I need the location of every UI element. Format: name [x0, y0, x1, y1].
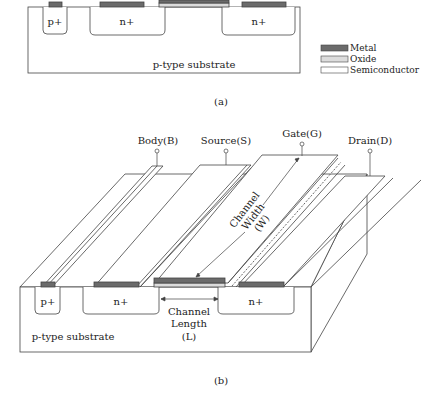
p-plus-label-b: p+ — [41, 296, 56, 307]
gate-metal-a — [159, 0, 229, 3]
channel-length-line1: Channel — [168, 306, 210, 317]
source-terminal-icon — [224, 149, 228, 153]
gate-oxide-b — [154, 283, 225, 287]
body-terminal-icon — [155, 149, 159, 153]
legend-swatch-metal — [321, 45, 348, 51]
gate-label: Gate(G) — [282, 128, 322, 139]
n-plus-drain-label-b: n+ — [249, 296, 264, 307]
mosfet-diagram: p+ n+ n+ p-type substrate Metal Oxide Se… — [0, 0, 448, 408]
drain-terminal-icon — [368, 149, 372, 153]
terminal-labels: Body(B) Source(S) Gate(G) Drain(D) — [138, 128, 392, 146]
gate-oxide-a — [159, 3, 229, 7]
n-plus-drain-label-a: n+ — [252, 16, 267, 27]
source-metal-a — [100, 2, 144, 7]
caption-b: (b) — [214, 375, 228, 386]
legend-swatch-oxide — [321, 56, 348, 62]
drain-metal-a — [242, 2, 286, 7]
legend-label-semiconductor: Semiconductor — [350, 65, 420, 75]
n-plus-source-label-a: n+ — [120, 16, 135, 27]
source-metal-b — [94, 282, 139, 287]
body-metal-a — [49, 2, 62, 7]
substrate-label-a: p-type substrate — [153, 59, 236, 70]
channel-length-line2: Length — [171, 318, 207, 329]
caption-a: (a) — [214, 96, 228, 107]
legend-label-metal: Metal — [350, 43, 377, 53]
body-metal-b — [41, 282, 55, 287]
channel-length-line3: (L) — [182, 331, 197, 342]
body-label: Body(B) — [138, 135, 179, 146]
p-plus-label-a: p+ — [48, 16, 63, 27]
substrate-label-b: p-type substrate — [32, 331, 115, 342]
legend-label-oxide: Oxide — [350, 54, 376, 64]
drain-metal-b — [239, 282, 284, 287]
source-label: Source(S) — [201, 135, 251, 146]
gate-terminal-icon — [300, 142, 304, 146]
legend-swatch-semiconductor — [321, 67, 348, 73]
legend: Metal Oxide Semiconductor — [321, 43, 420, 75]
n-plus-source-label-b: n+ — [114, 296, 129, 307]
drain-label: Drain(D) — [348, 135, 392, 146]
gate-metal-b — [154, 278, 225, 283]
